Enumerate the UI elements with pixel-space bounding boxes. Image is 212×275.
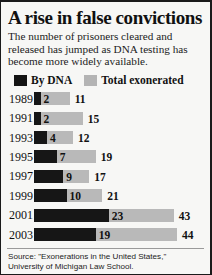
- source-note: Source: "Exonerations in the United Stat…: [8, 252, 202, 271]
- legend-item-total-exonerated: Total exonerated: [84, 74, 183, 86]
- legend-label-total-exonerated: Total exonerated: [101, 74, 183, 86]
- bar-value-by-dna: 2: [44, 93, 50, 105]
- bar-segment-by-dna: [34, 189, 67, 202]
- bar-segment-by-dna: [34, 112, 41, 125]
- bar-segment-by-dna: [34, 131, 47, 144]
- bar-row: 1997917: [1, 167, 210, 186]
- bar-value-by-dna: 10: [70, 190, 82, 202]
- bar-row: 1995719: [1, 148, 210, 167]
- source-divider: [7, 248, 204, 249]
- bar-row: 1993412: [1, 129, 210, 148]
- bar-row-year-label: 2001: [3, 208, 33, 223]
- bar-value-by-dna: 19: [99, 229, 111, 241]
- infographic-card: A rise in false convictions The number o…: [0, 0, 212, 275]
- bar-row-year-label: 1991: [3, 111, 33, 126]
- legend-label-by-dna: By DNA: [31, 74, 72, 86]
- bar-segment-total-exonerated: [34, 112, 83, 125]
- bar-value-by-dna: 7: [60, 151, 66, 163]
- bar-row-year-label: 1989: [3, 92, 33, 107]
- bar-segment-by-dna: [34, 228, 96, 241]
- bar-segment-by-dna: [34, 150, 57, 163]
- bar-value-by-dna: 4: [50, 132, 56, 144]
- bar-row-year-label: 1999: [3, 189, 33, 204]
- bar-row: 19991021: [1, 187, 210, 206]
- bar-value-total-exonerated: 19: [101, 151, 113, 163]
- bar-row: 20012343: [1, 206, 210, 225]
- bar-value-total-exonerated: 44: [182, 229, 194, 241]
- subtitle-text: The number of prisoners cleared and rele…: [8, 30, 202, 68]
- bar-value-total-exonerated: 12: [78, 132, 90, 144]
- bar-row-year-label: 2003: [3, 228, 33, 243]
- legend-item-by-dna: By DNA: [14, 74, 72, 86]
- bar-row: 1991215: [1, 109, 210, 128]
- bar-row-year-label: 1993: [3, 131, 33, 146]
- bar-value-total-exonerated: 43: [179, 210, 191, 222]
- bar-value-total-exonerated: 11: [75, 93, 86, 105]
- bar-row-year-label: 1995: [3, 150, 33, 165]
- bar-value-total-exonerated: 21: [107, 190, 119, 202]
- page-title: A rise in false convictions: [8, 7, 210, 28]
- bar-value-by-dna: 9: [66, 171, 72, 183]
- bar-row: 1989211: [1, 90, 210, 109]
- bar-row: 20031944: [1, 226, 210, 245]
- chart-legend: By DNA Total exonerated: [14, 74, 210, 87]
- legend-swatch-gray-icon: [84, 75, 97, 86]
- bar-chart-plot-area: 1989211199121519934121995719199791719991…: [1, 90, 210, 245]
- bar-segment-by-dna: [34, 92, 41, 105]
- bar-row-year-label: 1997: [3, 169, 33, 184]
- bar-value-total-exonerated: 17: [94, 171, 106, 183]
- bar-value-by-dna: 2: [44, 113, 50, 125]
- bar-value-total-exonerated: 15: [88, 113, 100, 125]
- bar-segment-by-dna: [34, 209, 109, 222]
- bar-segment-by-dna: [34, 170, 63, 183]
- legend-swatch-dark-icon: [14, 75, 27, 86]
- bar-value-by-dna: 23: [112, 210, 124, 222]
